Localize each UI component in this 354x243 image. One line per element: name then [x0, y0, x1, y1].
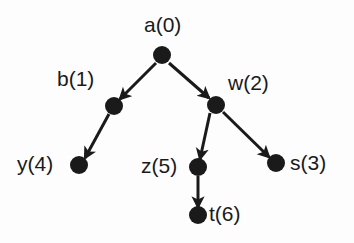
- graph-node-a[interactable]: [153, 46, 171, 64]
- graph-canvas: [0, 0, 354, 243]
- graph-node-label-w: w(2): [228, 72, 269, 93]
- graph-node-label-s: s(3): [290, 152, 326, 173]
- graph-diagram: a(0)b(1)w(2)s(3)y(4)z(5)t(6): [0, 0, 354, 243]
- graph-node-b[interactable]: [105, 97, 123, 115]
- graph-edge-w-s: [223, 112, 269, 157]
- graph-node-w[interactable]: [207, 96, 225, 114]
- graph-node-label-a: a(0): [144, 14, 181, 35]
- graph-node-z[interactable]: [189, 158, 207, 176]
- graph-node-t[interactable]: [189, 206, 207, 224]
- graph-node-s[interactable]: [267, 154, 285, 172]
- graph-edge-a-b: [120, 63, 156, 99]
- graph-edge-b-y: [85, 114, 109, 158]
- graph-edge-w-z: [200, 113, 210, 159]
- graph-node-y[interactable]: [70, 156, 88, 174]
- graph-node-label-z: z(5): [141, 155, 177, 176]
- graph-node-label-b: b(1): [57, 68, 94, 89]
- graph-edge-a-w: [169, 63, 209, 98]
- graph-node-label-y: y(4): [17, 153, 53, 174]
- graph-node-label-t: t(6): [209, 203, 241, 224]
